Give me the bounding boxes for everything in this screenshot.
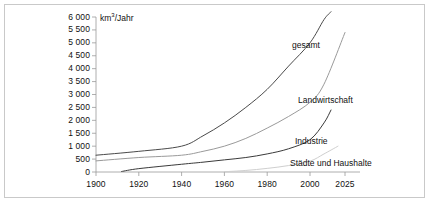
y-tick-label: 2 000: [40, 115, 90, 125]
x-tick-label: 1940: [162, 179, 202, 189]
x-tick-label: 1920: [119, 179, 159, 189]
series-label-staedte-und-haushalte: Städte und Haushalte: [290, 158, 372, 168]
series-label-landwirtschaft: Landwirtschaft: [298, 95, 353, 105]
y-tick-label: 500: [40, 154, 90, 164]
series-line-gesamt: [96, 12, 331, 155]
x-tick-label: 2025: [325, 179, 365, 189]
chart-series-paths: [96, 12, 345, 172]
y-tick-label: 3 000: [40, 89, 90, 99]
unit-suffix: /Jahr: [115, 13, 134, 23]
y-tick-label: 4 500: [40, 50, 90, 60]
x-axis-ticks: [96, 172, 345, 176]
y-axis-unit-label: km3/Jahr: [100, 12, 134, 23]
y-tick-label: 6 000: [40, 12, 90, 22]
y-tick-label: 0: [40, 167, 90, 177]
series-label-gesamt: gesamt: [292, 40, 320, 50]
x-tick-label: 2000: [290, 179, 330, 189]
y-tick-label: 1 500: [40, 128, 90, 138]
y-tick-label: 3 500: [40, 76, 90, 86]
x-tick-label: 1960: [204, 179, 244, 189]
y-axis-ticks: [92, 17, 96, 172]
y-tick-label: 5 000: [40, 37, 90, 47]
y-tick-label: 2 500: [40, 102, 90, 112]
unit-prefix: km: [100, 13, 111, 23]
x-tick-label: 1900: [76, 179, 116, 189]
y-tick-label: 5 500: [40, 24, 90, 34]
x-tick-label: 1980: [247, 179, 287, 189]
series-label-industrie: Industrie: [295, 136, 328, 146]
y-tick-label: 1 000: [40, 141, 90, 151]
y-tick-label: 4 000: [40, 63, 90, 73]
